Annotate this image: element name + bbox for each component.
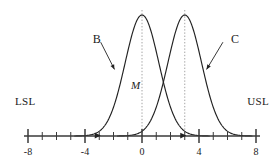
annotation-arrows-group: [95, 42, 223, 138]
distribution-figure: LSL USL M B C -8-4048: [0, 0, 270, 164]
arrowhead-c-left-tail: [180, 133, 186, 139]
lsl-label: LSL: [15, 96, 35, 107]
arrow-to-curve-b: [101, 42, 115, 69]
arrow-to-curve-c: [207, 42, 223, 69]
midpoint-label: M: [131, 80, 140, 91]
curve-b-label: B: [93, 33, 101, 45]
usl-label: USL: [247, 96, 269, 107]
x-tick-label-0: 0: [140, 147, 145, 157]
curves-group: [75, 15, 252, 136]
reference-lines-group: [142, 10, 185, 136]
x-tick-label-8: 8: [254, 147, 259, 157]
x-tick-label--8: -8: [24, 147, 32, 157]
axis-group: [24, 129, 260, 143]
x-tick-label--4: -4: [81, 147, 89, 157]
arrowhead-b-left-tail: [95, 133, 101, 139]
x-tick-label-4: 4: [197, 147, 202, 157]
curve-c-label: C: [231, 33, 239, 45]
